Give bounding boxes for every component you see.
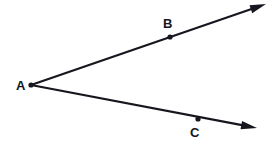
geometry-canvas (0, 0, 275, 146)
point-b-dot (167, 34, 172, 39)
point-label-b: B (163, 17, 172, 30)
point-label-a: A (16, 79, 25, 92)
geometry-figure: A B C (0, 0, 275, 146)
point-a-dot (28, 82, 33, 87)
point-c-dot (195, 116, 200, 121)
point-label-c: C (190, 126, 199, 139)
